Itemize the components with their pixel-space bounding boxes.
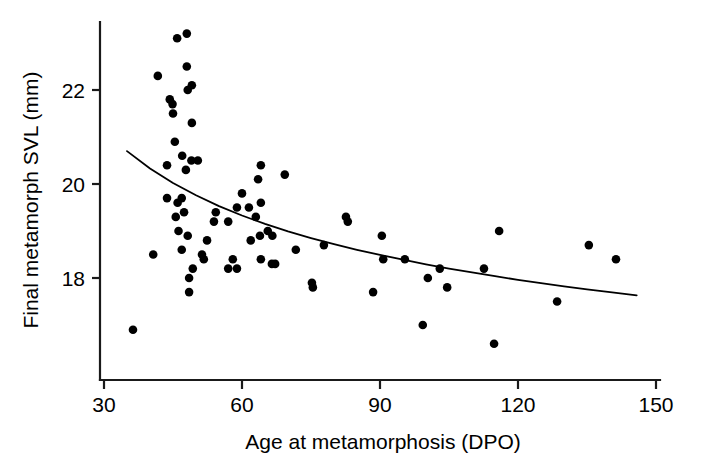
data-point xyxy=(154,72,163,81)
data-point xyxy=(585,241,594,250)
data-point xyxy=(480,264,489,273)
scatter-points-group xyxy=(129,29,621,348)
data-point xyxy=(182,166,191,175)
x-tick-label-90: 90 xyxy=(368,393,391,416)
data-point xyxy=(188,264,197,273)
x-tick-label-30: 30 xyxy=(92,393,115,416)
data-point xyxy=(188,81,197,90)
data-point xyxy=(224,264,233,273)
data-point xyxy=(271,260,280,269)
data-point xyxy=(171,137,180,146)
data-point xyxy=(203,236,212,245)
data-point xyxy=(183,29,192,38)
plot-canvas: 22 20 18 30 60 90 120 150 Age at metamor… xyxy=(0,0,703,465)
y-axis-title: Final metamorph SVL (mm) xyxy=(19,71,42,328)
data-point xyxy=(309,283,318,292)
data-point xyxy=(229,255,238,264)
data-point xyxy=(280,170,289,179)
data-point xyxy=(612,255,621,264)
data-point xyxy=(490,340,499,349)
data-point xyxy=(401,255,410,264)
y-tick-label-20: 20 xyxy=(62,173,85,196)
data-point xyxy=(238,189,247,198)
data-point xyxy=(183,62,192,71)
data-point xyxy=(233,264,242,273)
data-point xyxy=(418,321,427,330)
x-tick-label-120: 120 xyxy=(500,393,535,416)
data-point xyxy=(256,231,265,240)
x-axis-title: Age at metamorphosis (DPO) xyxy=(245,430,520,453)
data-point xyxy=(553,297,562,306)
data-point xyxy=(163,194,172,203)
data-point xyxy=(320,241,329,250)
scatter-plot-figure: 22 20 18 30 60 90 120 150 Age at metamor… xyxy=(0,0,703,465)
data-point xyxy=(180,208,189,217)
data-point xyxy=(252,213,261,222)
y-tick-label-18: 18 xyxy=(62,267,85,290)
fit-curve xyxy=(127,151,637,295)
data-point xyxy=(185,288,194,297)
data-point xyxy=(246,236,255,245)
data-point xyxy=(177,246,186,255)
data-point xyxy=(211,208,220,217)
data-point xyxy=(171,213,180,222)
data-point xyxy=(268,231,277,240)
data-point xyxy=(344,217,353,226)
data-point xyxy=(257,161,266,170)
data-point xyxy=(254,175,263,184)
data-point xyxy=(233,203,242,212)
data-point xyxy=(210,217,219,226)
data-point xyxy=(178,152,187,161)
y-tick-label-22: 22 xyxy=(62,79,85,102)
data-point xyxy=(245,203,254,212)
data-point xyxy=(200,255,209,264)
data-point xyxy=(369,288,378,297)
data-point xyxy=(379,255,388,264)
data-point xyxy=(436,264,445,273)
data-point xyxy=(378,231,387,240)
data-point xyxy=(188,119,197,128)
x-tick-label-60: 60 xyxy=(230,393,253,416)
data-point xyxy=(129,325,138,334)
data-point xyxy=(169,109,178,118)
data-point xyxy=(173,199,182,208)
data-point xyxy=(168,100,177,109)
data-point xyxy=(163,161,172,170)
data-point xyxy=(292,246,301,255)
y-axis-ticks xyxy=(92,90,100,278)
data-point xyxy=(495,227,504,236)
data-point xyxy=(149,250,158,259)
data-point xyxy=(185,274,194,283)
data-point xyxy=(194,156,203,165)
data-point xyxy=(224,217,233,226)
data-point xyxy=(424,274,433,283)
data-point xyxy=(174,227,183,236)
x-axis-ticks xyxy=(104,380,656,389)
x-tick-label-150: 150 xyxy=(638,393,673,416)
data-point xyxy=(183,231,192,240)
data-point xyxy=(173,34,182,43)
data-point xyxy=(443,283,452,292)
data-point xyxy=(257,255,266,264)
data-point xyxy=(257,199,266,208)
